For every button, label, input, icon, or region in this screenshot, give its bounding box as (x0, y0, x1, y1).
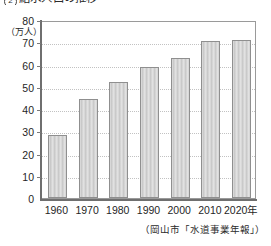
y-tick-label-30: 30 (8, 127, 34, 137)
bar-2020 (232, 40, 251, 198)
bar-1980 (109, 82, 128, 198)
y-tick-label-80: 80 (8, 16, 34, 26)
source-note: （岡山市「水道事業年報」） (140, 224, 265, 236)
x-axis-line (40, 199, 257, 201)
y-tick-mark-80 (37, 21, 41, 22)
bar-2010 (201, 41, 220, 198)
y-tick-label-20: 20 (8, 150, 34, 160)
bar-1990 (140, 67, 159, 198)
y-axis-unit-label: （万人） (6, 27, 42, 37)
bar-chart: （万人） 80706050403020100196019701980199020… (0, 0, 271, 246)
y-tick-label-10: 10 (8, 172, 34, 182)
y-tick-mark-10 (37, 177, 41, 178)
plot-frame (41, 21, 256, 199)
y-tick-label-0: 0 (8, 194, 34, 204)
y-tick-label-50: 50 (8, 83, 34, 93)
y-tick-mark-40 (37, 110, 41, 111)
y-tick-label-60: 60 (8, 61, 34, 71)
bar-2000 (171, 58, 190, 198)
y-tick-mark-30 (37, 132, 41, 133)
x-tick-label-2020: 2020年 (217, 204, 265, 216)
y-tick-label-40: 40 (8, 105, 34, 115)
y-tick-mark-50 (37, 88, 41, 89)
y-tick-mark-20 (37, 155, 41, 156)
y-tick-label-70: 70 (8, 38, 34, 48)
gridline-70 (42, 44, 255, 45)
y-tick-mark-70 (37, 43, 41, 44)
bar-1960 (48, 135, 67, 198)
y-tick-mark-60 (37, 66, 41, 67)
bar-1970 (79, 99, 98, 198)
